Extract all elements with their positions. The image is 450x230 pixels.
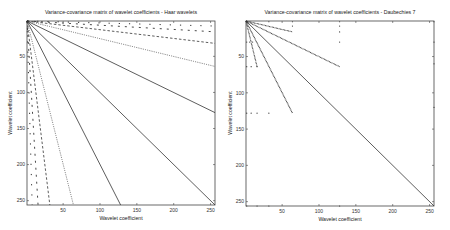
haar-series-scale-4-lower	[27, 21, 73, 205]
haar-y-tick-label: 150	[17, 125, 26, 131]
daubechies-scatter-point	[292, 21, 293, 22]
daubechies-scatter-point	[268, 113, 269, 114]
haar-series-scale-32-upper	[27, 21, 215, 26]
daubechies-scatter-point	[339, 25, 340, 26]
daubechies-y-tick-label: 150	[236, 126, 245, 132]
daubechies-scatter-point	[256, 113, 257, 114]
daubechies-x-tick-label: 250	[425, 208, 434, 214]
daubechies-title: Variance-covariance matrix of wavelet co…	[265, 9, 416, 15]
daubechies-series-scale-4-lower	[246, 21, 257, 67]
daubechies-ticks-layer: 5010015020025050100150200250	[236, 21, 434, 214]
haar-y-tick-label: 200	[17, 161, 26, 167]
daubechies-series-diagonal	[246, 21, 434, 206]
daubechies-scatter-point	[339, 21, 340, 22]
daubechies-series-scale-2-lower	[246, 21, 292, 113]
haar-x-axis-label: Wavelet coefficient	[99, 215, 143, 221]
daubechies-scatter-point	[268, 205, 269, 206]
haar-x-tick-label: 150	[133, 207, 142, 213]
haar-series-layer	[27, 21, 215, 205]
daubechies-scatter-point	[433, 41, 434, 42]
haar-series-scale-2-upper	[27, 21, 215, 113]
haar-y-axis-label: Wavelet coefficient	[7, 91, 13, 135]
haar-series-scale-32-lower	[27, 21, 32, 205]
haar-x-tick-label: 50	[60, 207, 66, 213]
daubechies-scatter-point	[339, 41, 340, 42]
haar-x-tick-label: 100	[96, 207, 105, 213]
haar-x-tick-label: 200	[170, 207, 179, 213]
haar-series-scale-16-upper	[27, 21, 215, 32]
daubechies-scatter-point	[251, 113, 252, 114]
daubechies-series-scale-2-upper	[246, 21, 340, 67]
haar-series-scale-16-lower	[27, 21, 38, 205]
daubechies-y-axis-label: Wavelet coefficient	[227, 91, 233, 135]
daubechies-scatter-point	[433, 107, 434, 108]
haar-series-scale-4-upper	[27, 21, 215, 66]
daubechies-x-tick-label: 100	[315, 208, 324, 214]
daubechies-scatter-point	[256, 66, 257, 67]
daubechies-scatter-point	[339, 205, 340, 206]
haar-series-scale-2-lower	[27, 21, 121, 205]
haar-y-tick-label: 50	[19, 53, 25, 59]
haar-title: Variance-covariance matrix of wavelet co…	[45, 9, 197, 15]
daubechies-y-tick-label: 50	[238, 53, 244, 59]
haar-y-tick-label: 250	[17, 197, 26, 203]
daubechies-scatter-point	[246, 66, 247, 67]
haar-series-scale-8-lower	[27, 21, 50, 205]
daubechies-scatter-point	[252, 41, 253, 42]
haar-x-tick-label: 250	[206, 207, 215, 213]
daubechies-scatter-point	[433, 63, 434, 64]
daubechies-x-axis-label: Wavelet coefficient	[318, 216, 362, 222]
daubechies-scatter-point	[292, 25, 293, 26]
daubechies-x-tick-label: 150	[352, 208, 361, 214]
haar-series-diagonal	[27, 21, 215, 205]
daubechies-scatter-point	[249, 41, 250, 42]
figure: Variance-covariance matrix of wavelet co…	[0, 0, 450, 230]
haar-panel: Variance-covariance matrix of wavelet co…	[7, 9, 215, 221]
haar-series-scale-8-upper	[27, 21, 215, 43]
daubechies-scatter-point	[268, 21, 269, 22]
daubechies-x-tick-label: 200	[389, 208, 398, 214]
daubechies-scatter-point	[256, 205, 257, 206]
haar-ticks-layer: 5010015020025050100150200250	[17, 21, 215, 213]
daubechies-scatter-point	[433, 21, 434, 22]
daubechies-series-layer	[246, 21, 435, 207]
daubechies-x-tick-label: 50	[279, 208, 285, 214]
haar-y-tick-label: 100	[17, 89, 26, 95]
daubechies-y-tick-label: 100	[236, 90, 245, 96]
daubechies-scatter-point	[251, 66, 252, 67]
daubechies-scatter-point	[246, 113, 247, 114]
daubechies-scatter-point	[246, 41, 247, 42]
daubechies-series-scale-4-upper	[246, 21, 292, 32]
daubechies-scatter-point	[339, 31, 340, 32]
daubechies-scatter-point	[246, 205, 247, 206]
daubechies-y-tick-label: 200	[236, 162, 245, 168]
daubechies-y-tick-label: 250	[236, 198, 245, 204]
daubechies-panel: Variance-covariance matrix of wavelet co…	[227, 9, 435, 222]
